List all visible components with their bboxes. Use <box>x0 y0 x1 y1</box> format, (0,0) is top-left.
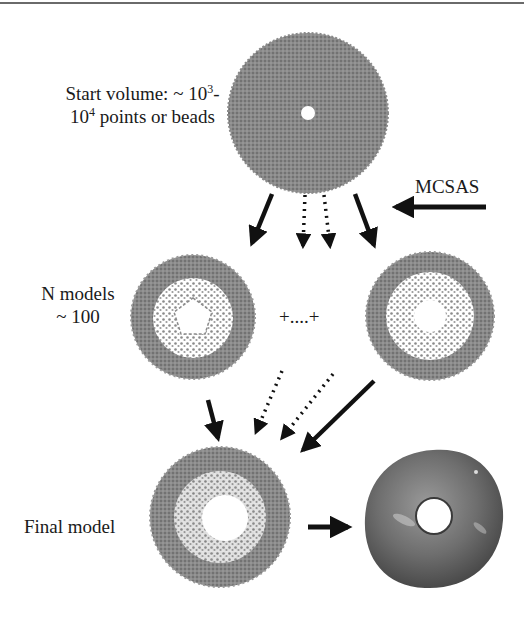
n-models-label: N models ~ 100 <box>28 282 128 328</box>
start-volume-disc <box>228 33 388 193</box>
arrow-start-to-model-n <box>355 194 374 245</box>
final-model-bead-ring <box>150 447 290 587</box>
dotted-arrow-start-to-mid-1 <box>303 195 305 246</box>
final-model-surface <box>365 450 503 588</box>
ellipsis-label: +....+ <box>279 305 319 328</box>
mcsas-label: MCSAS <box>415 175 479 198</box>
model-1-bead-ring <box>131 255 255 379</box>
n-models-line-1: N models <box>28 282 128 305</box>
start-volume-line-2: 104 points or beads <box>55 105 230 128</box>
final-model-label: Final model <box>24 515 115 538</box>
arrow-start-to-model-1 <box>252 194 272 243</box>
dotted-arrow-start-to-mid-2 <box>324 195 330 246</box>
model-n-bead-ring <box>366 252 494 380</box>
dotted-arrow-mid-to-final-1 <box>256 371 282 432</box>
start-volume-label: Start volume: ~ 103- 104 points or beads <box>55 82 230 128</box>
arrow-model-1-to-final <box>208 400 218 438</box>
arrow-model-n-to-final <box>303 381 374 450</box>
n-models-line-2: ~ 100 <box>28 305 128 328</box>
start-volume-line-1: Start volume: ~ 103- <box>55 82 230 105</box>
